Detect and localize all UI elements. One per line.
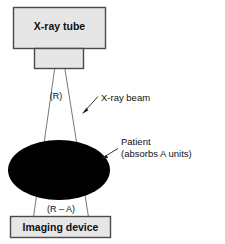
transmitted-intensity-label: (R – A) <box>47 204 75 214</box>
patient-label-line2: (absorbs A units) <box>121 148 192 159</box>
xray-attenuation-diagram: X-ray tube (R) X-ray beam Patient (absor… <box>0 0 225 244</box>
beam-intensity-label: (R) <box>50 91 63 101</box>
patient-label-line1: Patient <box>121 136 151 147</box>
xray-beam-callout: X-ray beam <box>82 92 150 114</box>
xray-tube-label: X-ray tube <box>34 20 86 32</box>
diagram-canvas: X-ray tube (R) X-ray beam Patient (absor… <box>0 0 225 244</box>
patient-callout: Patient (absorbs A units) <box>101 136 192 159</box>
xray-beam-callout-label: X-ray beam <box>101 92 150 103</box>
collimator-box <box>35 49 84 69</box>
patient-ellipse <box>8 140 110 200</box>
imaging-device-label: Imaging device <box>23 221 99 233</box>
